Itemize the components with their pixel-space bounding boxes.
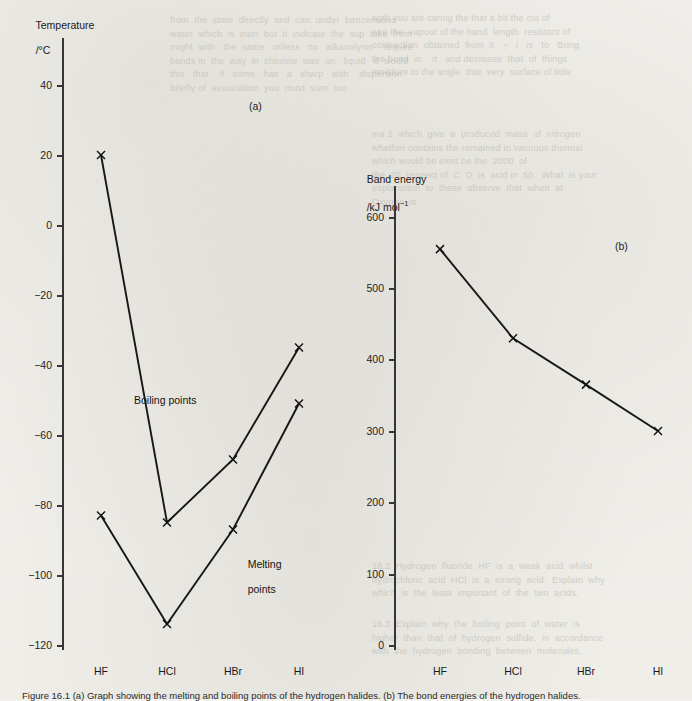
chart-temperature-panel: Temperature /°C (a) 40 20 0 −20 −40 −60 … xyxy=(0,0,346,699)
chart-b-category-label: HBr xyxy=(566,665,606,677)
chart-a-melting-label: Melting points xyxy=(236,545,282,608)
chart-b-category-label: HCl xyxy=(493,665,533,677)
chart-a-category-label: HF xyxy=(81,665,121,677)
chart-a-plot xyxy=(0,0,346,699)
chart-b-category-label: HF xyxy=(420,665,460,677)
chart-b-plot xyxy=(346,0,692,699)
chart-a-category-label: HI xyxy=(279,665,319,677)
chart-a-melting-label-line1: Melting xyxy=(248,558,282,570)
chart-a-category-label: HCl xyxy=(147,665,187,677)
chart-a-boiling-label: Boiling points xyxy=(134,394,196,407)
chart-b-category-label: HI xyxy=(638,665,678,677)
chart-bond-energy-panel: Band energy /kJ mol−1 (b) 600 500 400 30… xyxy=(346,0,692,699)
figure-caption: Figure 16.1 (a) Graph showing the meltin… xyxy=(22,690,682,701)
chart-a-melting-label-line2: points xyxy=(248,583,276,595)
chart-a-category-label: HBr xyxy=(213,665,253,677)
